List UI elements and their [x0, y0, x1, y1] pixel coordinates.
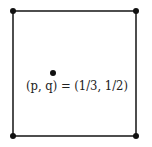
interior-point: [50, 70, 56, 76]
vertex-bottom-right: [133, 133, 139, 139]
diagram-canvas: (p, q) = (1/3, 1/2): [0, 0, 152, 147]
vertex-top-right: [133, 8, 139, 14]
point-label: (p, q) = (1/3, 1/2): [26, 78, 128, 93]
unit-square: [13, 11, 136, 136]
vertex-top-left: [10, 8, 16, 14]
vertex-bottom-left: [10, 133, 16, 139]
